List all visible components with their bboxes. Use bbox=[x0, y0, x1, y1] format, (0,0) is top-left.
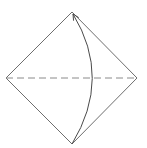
fold-diagram bbox=[0, 0, 147, 148]
curved-fold-arrow bbox=[72, 14, 92, 144]
